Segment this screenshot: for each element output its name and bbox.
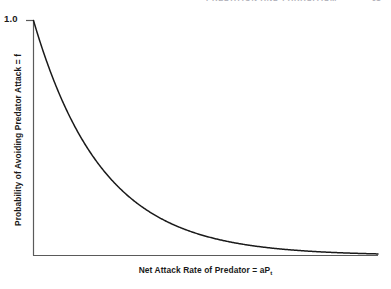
x-axis-title-subscript: t <box>270 269 272 276</box>
exponential-decay-curve <box>34 21 379 254</box>
y-axis-title: Probability of Avoiding Predator Attack … <box>13 30 23 250</box>
x-axis-title: Net Attack Rate of Predator = aPt <box>33 265 378 276</box>
x-axis-title-main: Net Attack Rate of Predator = aP <box>139 265 271 275</box>
plot-canvas <box>0 0 391 289</box>
figure-container: 1.0 Probability of Avoiding Predator Att… <box>0 0 391 289</box>
y-axis-tick-label-1: 1.0 <box>4 13 18 24</box>
